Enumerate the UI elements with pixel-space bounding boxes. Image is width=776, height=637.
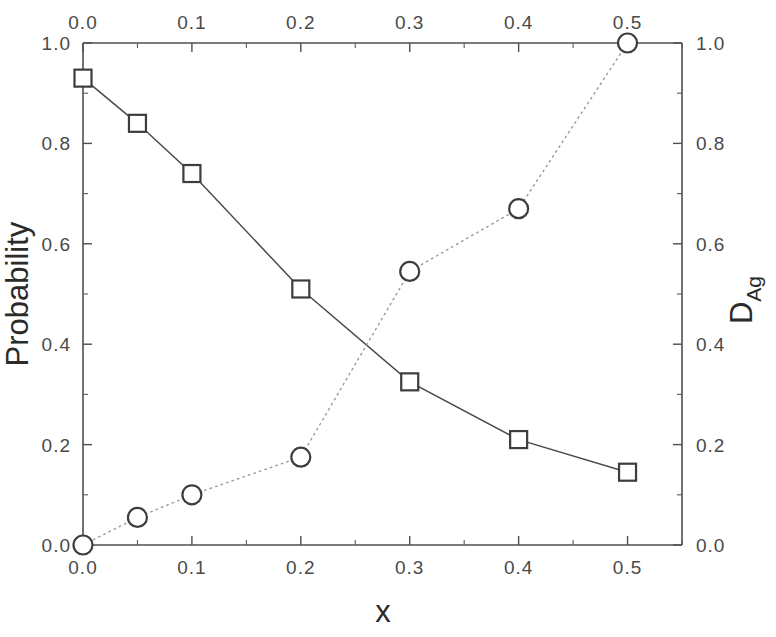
x-axis-top-tick-label: 0.1 [177,12,206,33]
x-axis-title-text: x [375,594,391,629]
data-point-d-ag [182,485,201,504]
x-axis-tick-label: 0.0 [68,557,97,578]
x-axis-title: x [375,594,391,629]
y-axis-left-tick-label: 0.2 [42,435,71,456]
data-point-probability [129,115,146,132]
data-point-d-ag [509,199,528,218]
data-point-d-ag [618,34,637,53]
data-point-probability [619,464,636,481]
y-axis-right-tick-label: 0.2 [696,435,725,456]
data-point-d-ag [74,536,93,555]
x-axis-tick-label: 0.5 [613,557,642,578]
chart-background [0,0,776,637]
y-axis-left-tick-label: 0.4 [42,334,71,355]
y-axis-right-tick-label: 0.0 [696,535,725,556]
data-point-d-ag [291,448,310,467]
y-axis-right-tick-label: 1.0 [696,33,725,54]
y-axis-left-tick-label: 0.0 [42,535,71,556]
chart-figure: 0.00.10.20.30.40.50.00.10.20.30.40.50.00… [0,0,776,637]
x-axis-top-tick-label: 0.0 [68,12,97,33]
y-axis-right-tick-label: 0.4 [696,334,725,355]
data-point-probability [510,431,527,448]
x-axis-top-tick-label: 0.5 [613,12,642,33]
x-axis-tick-label: 0.1 [177,557,206,578]
data-point-probability [401,373,418,390]
y-axis-right-tick-label: 0.6 [696,234,725,255]
data-point-probability [75,70,92,87]
data-point-d-ag [128,508,147,527]
data-point-probability [292,280,309,297]
x-axis-tick-label: 0.2 [286,557,315,578]
x-axis-top-tick-label: 0.3 [395,12,424,33]
y-left-axis-title-text: Probability [0,221,35,366]
y-axis-left-tick-label: 0.6 [42,234,71,255]
y-axis-right-tick-label: 0.8 [696,133,725,154]
y-axis-left-tick-label: 1.0 [42,33,71,54]
x-axis-top-tick-label: 0.2 [286,12,315,33]
y-left-axis-title: Probability [0,221,35,366]
x-axis-top-tick-label: 0.4 [504,12,533,33]
y-axis-left-tick-label: 0.8 [42,133,71,154]
data-point-d-ag [400,262,419,281]
x-axis-tick-label: 0.3 [395,557,424,578]
x-axis-tick-label: 0.4 [504,557,533,578]
data-point-probability [183,165,200,182]
